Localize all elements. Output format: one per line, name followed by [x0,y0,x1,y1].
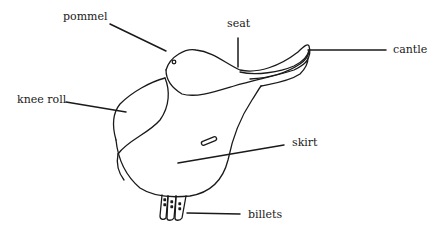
knee-roll-outline [113,78,165,140]
knee-roll-leader [66,102,126,112]
saddle-diagram [0,0,443,237]
pommel-leader [110,24,166,51]
label-billets: billets [248,209,282,220]
knee-roll-inner [118,78,168,154]
label-knee-roll: knee roll [17,94,66,105]
label-cantle: cantle [393,44,427,55]
label-skirt: skirt [292,137,318,148]
pommel-lower [166,62,306,95]
seat-line-2 [250,52,309,79]
label-seat: seat [227,18,250,29]
pommel-button-icon [172,60,176,64]
billets-icon [160,195,186,220]
billets-leader [187,213,240,214]
skirt-outline [116,86,261,197]
stirrup-bar-icon [201,136,217,146]
seat-line [240,50,309,74]
label-pommel: pommel [63,11,108,22]
